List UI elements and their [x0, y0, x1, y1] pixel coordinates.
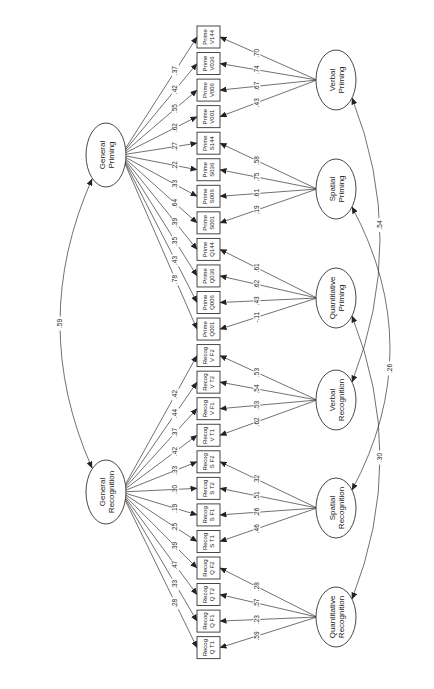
latent-verbal-priming: VerbalPriming — [316, 50, 356, 110]
observed-variable-box: PrimeQ001 — [197, 318, 220, 340]
loading-path — [125, 117, 197, 153]
loading-value: .62 — [171, 123, 178, 132]
latent-factor-label: QuantitativeRecognition — [328, 595, 346, 638]
latent-factor-label: GeneralPriming — [98, 141, 116, 170]
loading-value: .33 — [171, 579, 178, 588]
loading-value: .35 — [171, 237, 178, 246]
observed-variable-label: PrimeS001 — [202, 214, 215, 230]
loading-path — [220, 80, 317, 117]
observed-variable-box: RecogQ F2 — [197, 557, 220, 579]
loading-value: .28 — [253, 582, 260, 591]
latent-general-recognition: GeneralRecognition — [86, 460, 126, 524]
latent-general-priming: GeneralPriming — [86, 123, 126, 187]
loading-value: .23 — [253, 615, 260, 624]
loading-value: .39 — [171, 218, 178, 227]
loading-value: -.11 — [253, 312, 260, 323]
loading-value: .26 — [253, 507, 260, 516]
covariance-path — [352, 207, 390, 490]
loading-value: .27 — [171, 142, 178, 151]
latent-factor-label: VerbalPriming — [328, 66, 346, 93]
loading-path — [220, 617, 317, 621]
loading-path — [125, 164, 197, 329]
observed-variable-label: RecogV T2 — [202, 373, 215, 390]
loading-path — [220, 462, 317, 508]
loading-path — [125, 143, 197, 154]
loading-value: .19 — [253, 205, 260, 214]
loading-value: .33 — [171, 180, 178, 189]
loading-path — [220, 298, 317, 329]
observed-variable-label: PrimeS006 — [202, 188, 215, 204]
loading-value: .42 — [171, 85, 178, 94]
observed-variable-label: RecogS F1 — [202, 506, 215, 523]
loading-value: .61 — [253, 189, 260, 198]
observed-variable-label: RecogQ F1 — [202, 612, 215, 629]
loading-value: .37 — [171, 66, 178, 75]
loading-value: .53 — [253, 368, 260, 377]
latent-quantitative-priming: QuantitativePriming — [316, 268, 356, 328]
loading-path — [220, 189, 317, 223]
observed-variable-label: PrimeS144 — [202, 135, 215, 151]
loading-value: .43 — [253, 296, 260, 305]
observed-variable-label: RecogS T2 — [202, 480, 215, 497]
loading-value: .42 — [171, 390, 178, 399]
observed-variable-box: RecogS F1 — [197, 504, 220, 526]
loading-path — [125, 37, 197, 149]
observed-variable-box: PrimeS001 — [197, 212, 220, 234]
observed-variable-label: RecogQ T1 — [202, 639, 215, 656]
observed-variable-box: PrimeV144 — [197, 26, 220, 48]
observed-variable-box: PrimeQ006 — [197, 292, 220, 314]
observed-variable-box: RecogV F2 — [197, 345, 220, 367]
loading-value: .57 — [253, 598, 260, 607]
loading-value: .47 — [171, 560, 178, 569]
loading-path — [125, 494, 197, 541]
observed-variable-label: PrimeV001 — [202, 108, 215, 124]
loading-path — [220, 400, 317, 409]
loading-path — [220, 37, 317, 80]
observed-variable-label: RecogQ F2 — [202, 559, 215, 576]
observed-variable-label: RecogV T1 — [202, 427, 215, 444]
loading-value: .53 — [253, 400, 260, 409]
observed-variable-box: PrimeS036 — [197, 159, 220, 181]
observed-variable-label: PrimeV036 — [202, 55, 215, 71]
loading-value: .64 — [171, 199, 178, 208]
loading-value: .30 — [171, 484, 178, 493]
latent-factor-label: SpatialPriming — [328, 175, 346, 202]
loading-path — [125, 160, 197, 250]
observed-variable-box: PrimeV006 — [197, 79, 220, 101]
loading-value: .43 — [253, 98, 260, 107]
observed-variable-box: PrimeQ036 — [197, 265, 220, 287]
observed-variable-label: PrimeV144 — [202, 29, 215, 45]
loading-value: .19 — [171, 503, 178, 512]
observed-variable-label: PrimeQ036 — [202, 267, 215, 283]
observed-variable-box: RecogQ T1 — [197, 637, 220, 659]
covariance-value: .26 — [386, 364, 393, 373]
loading-path — [220, 64, 317, 80]
loading-value: .42 — [171, 447, 178, 456]
loading-path — [220, 595, 317, 617]
loading-path — [125, 500, 197, 648]
loading-path — [125, 435, 197, 489]
loading-value: .70 — [253, 48, 260, 57]
loading-value: .51 — [253, 491, 260, 500]
loading-path — [220, 249, 317, 298]
loading-path — [220, 80, 317, 90]
loading-value: .25 — [171, 522, 178, 531]
loading-value: .58 — [253, 156, 260, 165]
observed-variable-label: PrimeS036 — [202, 161, 215, 177]
observed-variable-box: RecogS T2 — [197, 477, 220, 499]
loading-value: .46 — [253, 524, 260, 533]
covariance-value: .54 — [376, 220, 383, 229]
loading-path — [220, 298, 317, 303]
loading-path — [220, 189, 317, 196]
observed-variable-box: PrimeS006 — [197, 185, 220, 207]
covariance-path — [352, 98, 380, 382]
loading-value: .62 — [253, 279, 260, 288]
loading-value: .74 — [253, 65, 260, 74]
latent-spatial-recognition: SpatialRecognition — [316, 478, 356, 538]
loading-path — [220, 400, 317, 435]
latent-spatial-priming: SpatialPriming — [316, 159, 356, 219]
loading-path — [125, 64, 197, 151]
covariance-value: .30 — [376, 453, 383, 462]
loading-value: .62 — [253, 417, 260, 426]
loading-value: .32 — [253, 474, 260, 483]
